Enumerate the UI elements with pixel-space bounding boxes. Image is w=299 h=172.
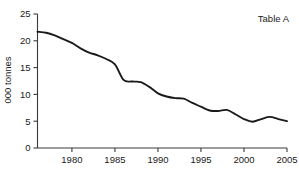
chart-container: 0510152025 198019851990199520002005 000 … [0,0,299,172]
y-tick-label: 0 [25,142,30,153]
y-tick-label: 15 [20,62,31,73]
y-tick-label: 20 [20,35,31,46]
x-tick-label: 2005 [276,154,297,165]
x-axis: 198019851990199520002005 [38,148,298,165]
line-chart: 0510152025 198019851990199520002005 000 … [0,0,299,172]
data-line-tonnes [38,32,288,122]
x-tick-label: 2000 [233,154,254,165]
y-tick-label: 5 [25,116,30,127]
y-axis-title: 000 tonnes [2,56,13,103]
chart-title: Table A [258,13,290,24]
y-tick-label: 10 [20,89,31,100]
x-tick-label: 1985 [104,154,125,165]
y-axis: 0510152025 [20,8,38,153]
x-tick-label: 1980 [61,154,82,165]
x-tick-label: 1990 [147,154,168,165]
x-tick-label: 1995 [190,154,211,165]
data-series-group [38,32,288,122]
y-tick-label: 25 [20,8,31,19]
